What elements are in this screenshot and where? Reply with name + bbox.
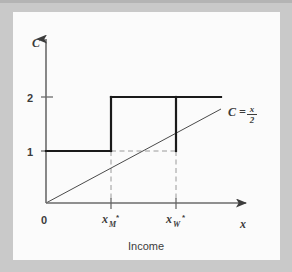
plot-panel: C 2 1 0 x M * x W * x Income [13,12,280,260]
axes [41,39,246,209]
axis-labels: C 2 1 0 x M * x W * x Income [27,36,246,252]
figure-frame: C 2 1 0 x M * x W * x Income [0,0,292,272]
equation-denominator: 2 [249,115,255,125]
x-tick-label-xM-superscript: * [116,213,120,222]
x-axis-label: x [239,217,246,231]
x-tick-label-xW: x W * [165,212,186,229]
budget-line [46,109,221,203]
x-axis-title: Income [128,240,164,252]
x-tick-label-xM-base: x [101,212,108,226]
y-tick-label-1: 1 [27,146,33,158]
y-axis-label: C [32,36,41,50]
y-tick-label-2: 2 [27,92,33,104]
equation-annotation: C = x 2 [228,104,257,125]
budget-line-series [46,109,221,203]
x-tick-label-xW-subscript: W [173,220,181,229]
equation-numerator: x [249,104,255,114]
guide-lines [60,151,176,204]
equation-lhs: C = [228,105,246,119]
step-function-series [46,97,221,151]
x-tick-label-xW-superscript: * [182,213,186,222]
x-tick-label-xW-base: x [165,212,172,226]
x-tick-label-xM: x M * [101,212,120,229]
origin-label: 0 [41,214,47,226]
economics-step-function-chart: C 2 1 0 x M * x W * x Income [13,12,280,260]
